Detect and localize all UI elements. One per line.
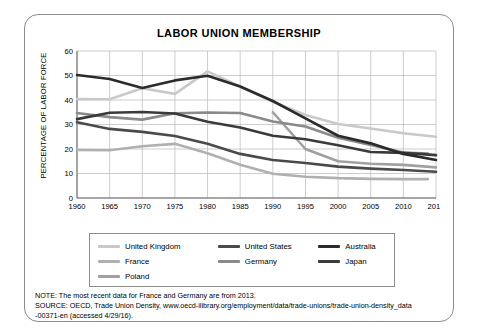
legend-swatch-icon: [218, 260, 240, 264]
chart-card: LABOR UNION MEMBERSHIP PERCENTAGE OF LAB…: [24, 14, 454, 322]
legend-item-australia[interactable]: Australia: [318, 242, 386, 251]
x-axis-tick: 2005: [362, 202, 379, 211]
legend-item-united-states[interactable]: United States: [218, 242, 319, 251]
y-axis-tick: 60: [65, 47, 73, 56]
plot-area: 0102030405060196019651970197519801985199…: [55, 47, 440, 216]
x-axis-tick: 1980: [199, 202, 216, 211]
legend-swatch-icon: [218, 245, 240, 249]
y-axis-tick: 40: [65, 96, 73, 105]
x-axis-tick: 2000: [330, 202, 347, 211]
legend-swatch-icon: [98, 275, 120, 279]
legend-row: FranceGermanyJapan: [98, 254, 386, 269]
legend-label: United States: [245, 242, 292, 251]
legend-label: Germany: [245, 257, 277, 266]
y-axis-tick: 30: [65, 120, 73, 129]
legend-row: Poland: [98, 269, 386, 284]
x-axis-tick: 1975: [166, 202, 183, 211]
legend-label: Poland: [125, 272, 149, 281]
line-chart: 0102030405060196019651970197519801985199…: [55, 47, 440, 216]
legend-item-japan[interactable]: Japan: [318, 257, 386, 266]
legend-swatch-icon: [318, 245, 340, 249]
source-line-cont: -00371-en (accessed 4/29/16).: [35, 311, 447, 321]
chart-legend: United KingdomUnited StatesAustraliaFran…: [89, 233, 395, 287]
chart-notes: NOTE: The most recent data for France an…: [35, 291, 447, 322]
x-axis-tick: 1985: [232, 202, 249, 211]
legend-swatch-icon: [98, 260, 120, 264]
legend-label: France: [125, 257, 149, 266]
x-axis-tick: 2014: [428, 202, 440, 211]
x-axis-tick: 2010: [395, 202, 412, 211]
legend-item-germany[interactable]: Germany: [218, 257, 319, 266]
legend-swatch-icon: [98, 245, 120, 249]
legend-item-poland[interactable]: Poland: [98, 272, 222, 281]
legend-label: Japan: [345, 257, 366, 266]
source-line: SOURCE: OECD, Trade Union Density, www.o…: [35, 301, 447, 311]
chart-title: LABOR UNION MEMBERSHIP: [25, 27, 453, 39]
note-line: NOTE: The most recent data for France an…: [35, 291, 447, 301]
x-axis-tick: 1995: [297, 202, 314, 211]
legend-item-france[interactable]: France: [98, 257, 218, 266]
y-axis-tick: 10: [65, 169, 73, 178]
x-axis-tick: 1990: [264, 202, 281, 211]
x-axis-tick: 1965: [101, 202, 118, 211]
y-axis-tick: 20: [65, 145, 73, 154]
legend-row: United KingdomUnited StatesAustralia: [98, 239, 386, 254]
legend-label: United Kingdom: [125, 242, 180, 251]
y-axis-tick: 50: [65, 71, 73, 80]
y-axis-label: PERCENTAGE OF LABOR FORCE: [39, 51, 48, 181]
legend-swatch-icon: [318, 260, 340, 264]
legend-label: Australia: [345, 242, 375, 251]
x-axis-tick: 1970: [134, 202, 151, 211]
x-axis-tick: 1960: [69, 202, 86, 211]
legend-item-united-kingdom[interactable]: United Kingdom: [98, 242, 218, 251]
